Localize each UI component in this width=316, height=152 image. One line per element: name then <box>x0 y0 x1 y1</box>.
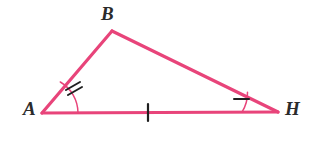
side-bh <box>112 31 278 112</box>
geometry-figure: A B H <box>0 0 316 152</box>
vertex-label-b: B <box>101 4 114 23</box>
vertex-label-a: A <box>23 99 36 118</box>
triangle-diagram-canvas <box>0 0 316 152</box>
vertex-label-h: H <box>285 99 300 118</box>
side-ab <box>42 31 112 113</box>
triangle-outline <box>42 31 278 113</box>
